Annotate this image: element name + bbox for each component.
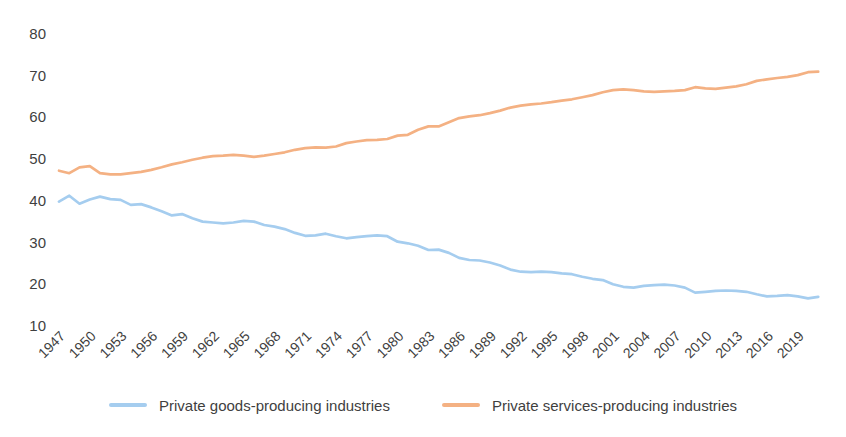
legend-label-services: Private services-producing industries xyxy=(492,397,737,414)
x-axis-tick-label: 1983 xyxy=(404,328,437,361)
y-axis-tick-label: 50 xyxy=(29,150,46,167)
x-axis-tick-label: 2004 xyxy=(620,328,653,361)
y-axis-tick-label: 60 xyxy=(29,108,46,125)
x-axis-tick-label: 1965 xyxy=(219,328,252,361)
services-line xyxy=(59,72,818,175)
x-axis-tick-label: 1962 xyxy=(189,328,222,361)
x-axis-tick-label: 1956 xyxy=(127,328,160,361)
x-axis-tick-label: 2019 xyxy=(773,328,806,361)
legend-label-goods: Private goods-producing industries xyxy=(159,397,390,414)
x-axis-tick-label: 2016 xyxy=(743,328,776,361)
legend-item-services: Private services-producing industries xyxy=(442,397,737,414)
x-axis-tick-label: 1992 xyxy=(496,328,529,361)
y-axis-tick-label: 70 xyxy=(29,67,46,84)
x-axis-tick-label: 2007 xyxy=(650,328,683,361)
x-axis-tick-label: 1989 xyxy=(466,328,499,361)
x-axis-tick-label: 1959 xyxy=(158,328,191,361)
x-axis-tick-label: 2001 xyxy=(589,328,622,361)
x-axis-tick-label: 1995 xyxy=(527,328,560,361)
chart-canvas: 1020304050607080194719501953195619591962… xyxy=(0,0,846,385)
chart-container: 1020304050607080194719501953195619591962… xyxy=(0,0,846,437)
y-axis-tick-label: 20 xyxy=(29,275,46,292)
y-axis-tick-label: 80 xyxy=(29,25,46,42)
x-axis-tick-label: 1980 xyxy=(373,328,406,361)
x-axis-tick-label: 1950 xyxy=(66,328,99,361)
x-axis-tick-label: 1953 xyxy=(96,328,129,361)
x-axis-tick-label: 1977 xyxy=(343,328,376,361)
services-line-marker-icon xyxy=(442,403,480,407)
x-axis-tick-label: 1986 xyxy=(435,328,468,361)
x-axis-tick-label: 1974 xyxy=(312,328,345,361)
x-axis-tick-label: 1998 xyxy=(558,328,591,361)
y-axis-tick-label: 40 xyxy=(29,192,46,209)
y-axis-tick-label: 30 xyxy=(29,234,46,251)
chart-legend: Private goods-producing industries Priva… xyxy=(0,392,846,418)
legend-item-goods: Private goods-producing industries xyxy=(109,397,390,414)
x-axis-tick-label: 2013 xyxy=(712,328,745,361)
goods-line-marker-icon xyxy=(109,403,147,407)
x-axis-tick-label: 1971 xyxy=(281,328,314,361)
y-axis-tick-label: 10 xyxy=(29,317,46,334)
x-axis-tick-label: 2010 xyxy=(681,328,714,361)
x-axis-tick-label: 1968 xyxy=(250,328,283,361)
goods-line xyxy=(59,196,818,299)
